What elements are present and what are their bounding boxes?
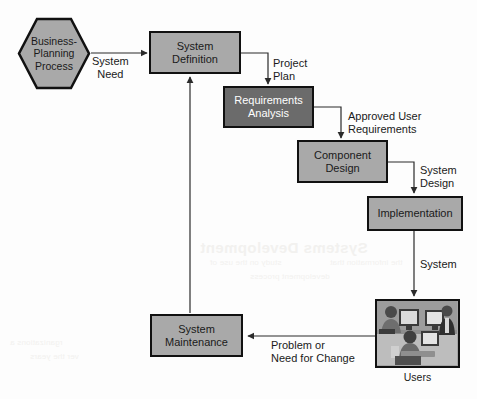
- edge-label-problem-or-need-for-change: Problem or Need for Change: [271, 339, 355, 365]
- edge-label-line1: Problem or: [271, 339, 325, 351]
- node-label-line1: Requirements: [234, 94, 302, 106]
- edge-label-line2: Requirements: [348, 123, 416, 135]
- node-requirements-analysis[interactable]: Requirements Analysis: [223, 86, 314, 128]
- bleed-through-line-e: ver the years: [30, 352, 79, 361]
- node-label-line2: Maintenance: [165, 336, 228, 348]
- edge-system-design: [388, 162, 414, 193]
- node-label-line3: Process: [35, 60, 73, 72]
- node-label: Business- Planning Process: [31, 35, 77, 73]
- diagram-canvas: Systems Development study on the use of …: [0, 0, 477, 399]
- edge-label-line2: Plan: [273, 70, 295, 82]
- edge-label-line2: Need for Change: [271, 352, 355, 364]
- node-label-line2: Design: [325, 162, 359, 174]
- node-label: Requirements Analysis: [231, 94, 305, 120]
- node-business-planning-process[interactable]: Business- Planning Process: [17, 17, 91, 90]
- edge-project-plan: [241, 53, 268, 84]
- edge-label-line1: System: [92, 55, 129, 67]
- node-users-photo[interactable]: [375, 299, 460, 368]
- node-label: System Definition: [169, 40, 221, 66]
- node-label-line1: System: [178, 323, 215, 335]
- node-label-line1: Implementation: [377, 207, 452, 219]
- edge-label-line1: Approved User: [348, 110, 421, 122]
- edge-label-line1: System: [420, 164, 457, 176]
- node-label-line2: Planning: [34, 47, 75, 59]
- node-label: Implementation: [374, 207, 455, 220]
- node-label: Component Design: [311, 149, 374, 175]
- edge-label-system: System: [420, 258, 457, 271]
- bleed-through-line-b: the information that: [330, 258, 402, 267]
- node-label-line1: Business-: [31, 35, 77, 47]
- bleed-through-line-a: study on the use of: [210, 258, 281, 267]
- edge-label-system-design: System Design: [420, 164, 457, 190]
- edge-label-line1: System: [420, 258, 457, 270]
- node-implementation[interactable]: Implementation: [367, 196, 463, 231]
- edge-label-line2: Design: [420, 177, 454, 189]
- edge-label-approved-user-requirements: Approved User Requirements: [348, 110, 421, 136]
- edge-label-line2: Need: [97, 68, 123, 80]
- node-label-line1: Component: [314, 149, 371, 161]
- node-label-line2: Definition: [172, 53, 218, 65]
- bleed-through-line-c: development process: [250, 272, 330, 281]
- edge-label-system-need: System Need: [92, 55, 129, 81]
- node-label-line1: System: [177, 40, 214, 52]
- node-label-line2: Analysis: [248, 107, 289, 119]
- bleed-through-heading: Systems Development: [200, 239, 368, 256]
- node-component-design[interactable]: Component Design: [297, 140, 388, 183]
- users-caption: Users: [375, 371, 460, 383]
- edge-approved-user-requirements: [314, 107, 341, 138]
- bleed-through-line-d: rganizations a: [10, 338, 63, 347]
- users-at-computers-image: [377, 301, 457, 365]
- edge-label-line1: Project: [273, 57, 307, 69]
- node-label: System Maintenance: [162, 323, 231, 349]
- node-system-maintenance[interactable]: System Maintenance: [150, 314, 243, 357]
- node-system-definition[interactable]: System Definition: [149, 31, 241, 74]
- edge-label-project-plan: Project Plan: [273, 57, 307, 83]
